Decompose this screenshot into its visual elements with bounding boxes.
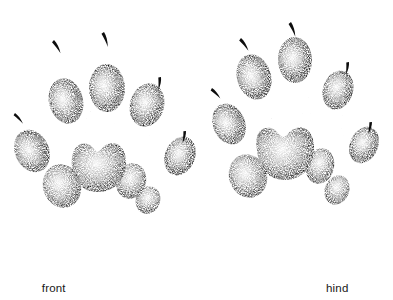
caption-row: front hind	[0, 282, 393, 294]
paw-track-figure: front hind	[0, 0, 393, 300]
caption-hind: hind	[196, 282, 393, 294]
tracks-illustration	[0, 0, 393, 300]
caption-front: front	[0, 282, 196, 294]
